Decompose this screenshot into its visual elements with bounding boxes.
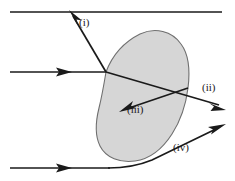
- ray-scattering-diagram: (i) (ii) (iii) (iv): [0, 0, 235, 181]
- ray-i-label: (i): [79, 17, 89, 28]
- ray-i-line: [73, 16, 106, 72]
- diagram-canvas: [0, 0, 235, 181]
- ray-iv-label: (iv): [173, 142, 189, 153]
- ray-iv-arrowhead: [208, 124, 226, 135]
- ray-ii-label: (ii): [202, 82, 215, 93]
- ray-iii-label: (iii): [127, 104, 144, 115]
